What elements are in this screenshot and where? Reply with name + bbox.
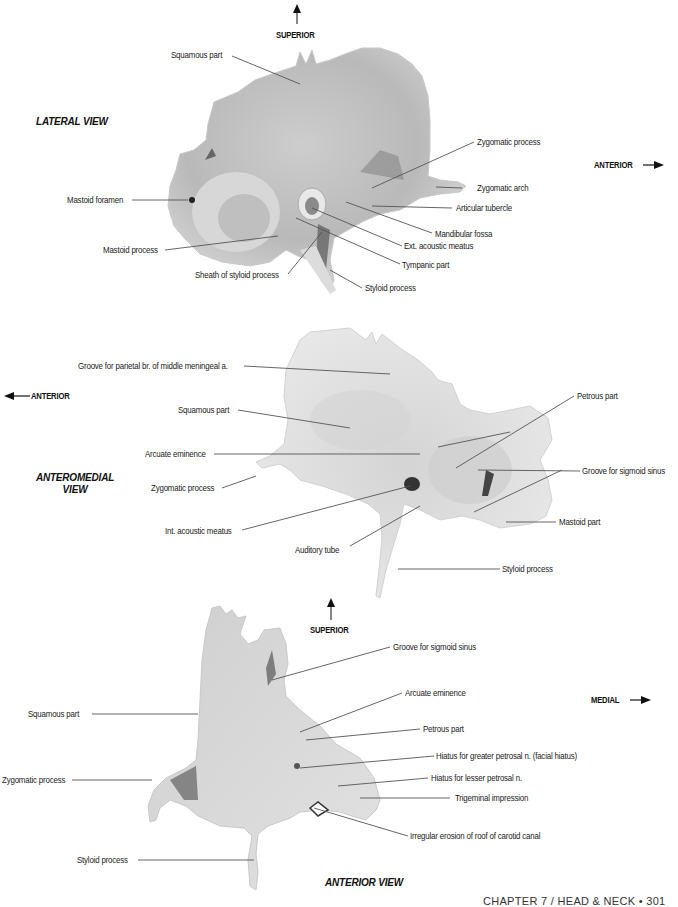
anteromedial-view-title: ANTEROMEDIAL VIEW (30, 472, 120, 496)
label-groove-for-sigmoid-sinus: Groove for sigmoid sinus (582, 466, 665, 476)
label-irregular-erosion-carotid-canal: Irregular erosion of roof of carotid can… (410, 831, 540, 841)
lateral-view-title: LATERAL VIEW (36, 116, 108, 128)
label-squamous-part: Squamous part (28, 709, 79, 719)
label-auditory-tube: Auditory tube (295, 545, 339, 555)
label-tympanic-part: Tympanic part (402, 260, 449, 270)
label-mastoid-foramen: Mastoid foramen (67, 195, 123, 205)
label-zygomatic-process: Zygomatic process (477, 137, 540, 147)
label-hiatus-greater-petrosal: Hiatus for greater petrosal n. (facial h… (436, 751, 577, 761)
label-styloid-process: Styloid process (502, 564, 553, 574)
direction-anterior-label: ANTERIOR (31, 391, 70, 401)
anteromedial-view-bone (256, 328, 552, 598)
direction-anterior-label: ANTERIOR (594, 160, 633, 170)
label-styloid-process: Styloid process (77, 855, 128, 865)
label-squamous-part: Squamous part (171, 50, 222, 60)
label-squamous-part: Squamous part (178, 405, 229, 415)
anteromedial-title-line2: VIEW (30, 484, 120, 496)
label-hiatus-lesser-petrosal: Hiatus for lesser petrosal n. (431, 773, 522, 783)
label-petrous-part: Petrous part (423, 724, 464, 734)
label-groove-for-sigmoid-sinus: Groove for sigmoid sinus (393, 642, 476, 652)
direction-superior-label: SUPERIOR (310, 625, 349, 635)
label-zygomatic-process: Zygomatic process (151, 483, 214, 493)
label-styloid-process: Styloid process (365, 283, 416, 293)
direction-superior-label: SUPERIOR (276, 30, 315, 40)
label-mastoid-part: Mastoid part (559, 517, 600, 527)
label-trigeminal-impression: Trigeminal impression (455, 793, 528, 803)
page-footer: CHAPTER 7 / HEAD & NECK • 301 (483, 895, 666, 907)
label-arcuate-eminence: Arcuate eminence (405, 688, 466, 698)
label-zygomatic-arch: Zygomatic arch (477, 183, 528, 193)
label-int-acoustic-meatus: Int. acoustic meatus (165, 526, 232, 536)
label-zygomatic-process: Zygomatic process (2, 775, 65, 785)
anterior-view-title: ANTERIOR VIEW (325, 877, 403, 889)
label-arcuate-eminence: Arcuate eminence (145, 449, 206, 459)
direction-medial-label: MEDIAL (591, 695, 619, 705)
anterior-view-bone (148, 606, 380, 890)
label-mastoid-process: Mastoid process (103, 245, 158, 255)
lateral-view-bone (168, 48, 466, 294)
label-ext-acoustic-meatus: Ext. acoustic meatus (404, 241, 473, 251)
label-articular-tubercle: Articular tubercle (456, 203, 512, 213)
label-petrous-part: Petrous part (577, 391, 618, 401)
anteromedial-title-line1: ANTEROMEDIAL (30, 472, 120, 484)
label-sheath-of-styloid-process: Sheath of styloid process (195, 270, 279, 280)
label-groove-for-parietal-branch: Groove for parietal br. of middle mening… (78, 361, 228, 371)
label-mandibular-fossa: Mandibular fossa (435, 229, 492, 239)
